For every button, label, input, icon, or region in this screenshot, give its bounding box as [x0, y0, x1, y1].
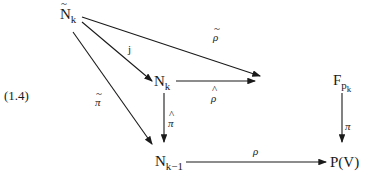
node-n-k-minus-1: Nk−1 — [155, 153, 183, 170]
label-pi: π — [345, 120, 351, 132]
label-pi-tilde: ~π — [95, 96, 101, 108]
node-f-pk: Fpk — [333, 72, 351, 89]
arrow-rho-tilde — [82, 17, 260, 76]
label-rho: ρ — [253, 145, 258, 157]
arrow-j — [82, 22, 152, 81]
label-j-text: j — [128, 43, 131, 55]
node-n-k: Nk — [154, 73, 170, 90]
equation-label: (1.4) — [4, 88, 29, 104]
label-pi-hat: ^π — [168, 117, 174, 129]
arrow-pi-tilde — [73, 32, 152, 144]
node-n-tilde-k: ~Nk — [60, 6, 76, 23]
label-rho-hat: ^ρ — [211, 92, 216, 104]
node-p-v: P(V) — [330, 154, 359, 171]
label-rho-tilde: ~ρ — [213, 31, 218, 43]
top-fragment: N — [2, 0, 13, 9]
